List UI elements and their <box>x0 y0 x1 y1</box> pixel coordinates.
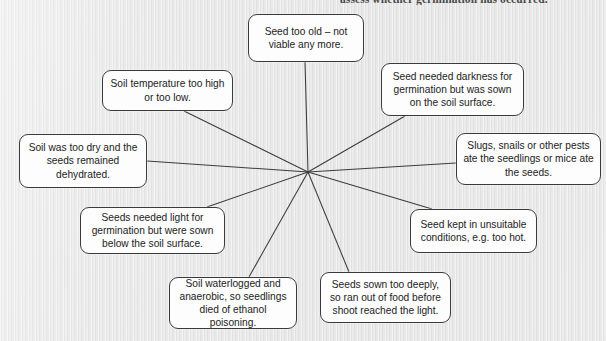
node-soil-waterlogged[interactable]: Soil waterlogged and anaerobic, so seedl… <box>169 277 297 329</box>
node-soil-temperature[interactable]: Soil temperature too high or too low. <box>102 70 233 111</box>
node-seed-needed-darkness-label: Seed needed darkness for germination but… <box>388 70 517 110</box>
diagram-page: assess whether germination has occurred.… <box>0 0 606 341</box>
node-soil-too-dry-label: Soil was too dry and the seeds remained … <box>26 141 140 181</box>
node-seed-too-old-label: Seed too old – not viable any more. <box>255 25 357 51</box>
node-seed-too-old[interactable]: Seed too old – not viable any more. <box>248 14 364 62</box>
node-soil-waterlogged-label: Soil waterlogged and anaerobic, so seedl… <box>176 277 290 330</box>
node-slugs-snails-pests[interactable]: Slugs, snails or other pests ate the see… <box>456 133 601 185</box>
connector-line-slugs-snails-pests <box>308 163 456 172</box>
connector-line-seed-needed-darkness <box>308 116 405 172</box>
node-slugs-snails-pests-label: Slugs, snails or other pests ate the see… <box>463 139 594 179</box>
node-seeds-needed-light-label: Seeds needed light for germination but w… <box>87 211 218 251</box>
node-seeds-sown-too-deeply[interactable]: Seeds sown too deeply, so ran out of foo… <box>320 272 451 323</box>
node-seed-kept-unsuitable-label: Seed kept in unsuitable conditions, e.g.… <box>417 218 530 244</box>
node-seed-needed-darkness[interactable]: Seed needed darkness for germination but… <box>381 63 524 116</box>
connector-line-soil-waterlogged <box>249 172 308 277</box>
node-soil-too-dry[interactable]: Soil was too dry and the seeds remained … <box>19 134 147 188</box>
connector-line-seed-too-old <box>305 62 308 172</box>
connector-line-seed-kept-unsuitable <box>308 172 432 209</box>
node-seed-kept-unsuitable[interactable]: Seed kept in unsuitable conditions, e.g.… <box>410 209 537 253</box>
connector-line-seeds-needed-light <box>207 172 308 207</box>
connector-line-seeds-sown-too-deeply <box>308 172 349 272</box>
node-seeds-sown-too-deeply-label: Seeds sown too deeply, so ran out of foo… <box>327 278 444 318</box>
node-soil-temperature-label: Soil temperature too high or too low. <box>109 77 226 103</box>
node-seeds-needed-light[interactable]: Seeds needed light for germination but w… <box>80 207 225 254</box>
connector-line-soil-too-dry <box>147 161 308 172</box>
connector-line-soil-temperature <box>184 111 308 172</box>
